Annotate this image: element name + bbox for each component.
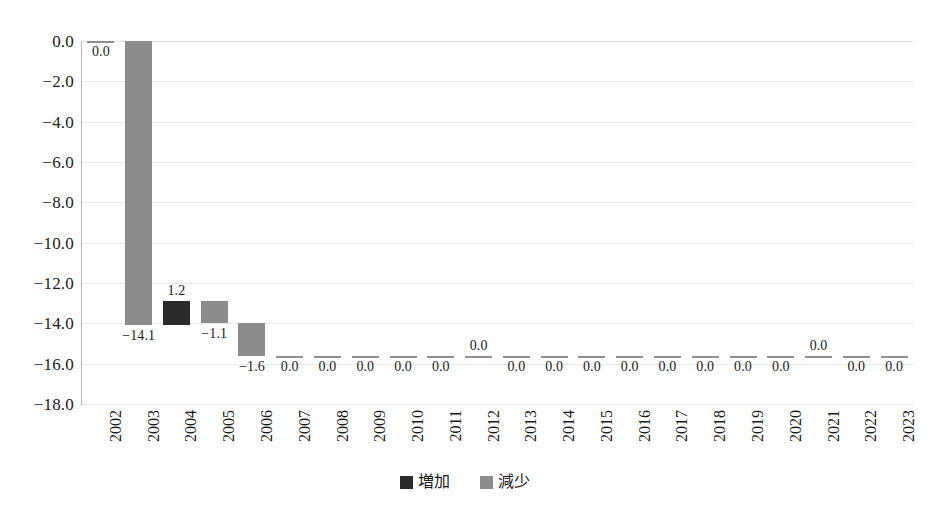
legend-swatch-increase	[400, 476, 413, 489]
gridline	[82, 162, 913, 163]
bar-2012[interactable]	[465, 356, 492, 358]
bar-value-label-2011: 0.0	[432, 360, 450, 374]
bar-value-label-2015: 0.0	[583, 360, 601, 374]
x-axis-tick-label-2022: 2022	[863, 410, 879, 442]
legend: 増加 減少	[0, 474, 929, 490]
bar-value-label-2008: 0.0	[319, 360, 337, 374]
bar-value-label-2017: 0.0	[659, 360, 677, 374]
y-axis-tick-label: −16.0	[34, 355, 74, 372]
x-axis-tick-label-2012: 2012	[486, 410, 502, 442]
y-axis-tick-label: −8.0	[42, 194, 74, 211]
gridline	[82, 243, 913, 244]
x-axis-tick-label-2003: 2003	[146, 410, 162, 442]
bar-value-label-2016: 0.0	[621, 360, 639, 374]
legend-label-decrease: 減少	[498, 474, 530, 490]
bar-2013[interactable]	[503, 356, 530, 358]
bar-value-label-2006: −1.6	[239, 360, 265, 374]
x-axis-tick-label-2005: 2005	[221, 410, 237, 442]
x-axis: 2002200320042005200620072008200920102011…	[0, 410, 929, 470]
x-axis-tick-label-2010: 2010	[410, 410, 426, 442]
y-axis-tick-label: −2.0	[42, 73, 74, 90]
x-axis-tick-label-2013: 2013	[523, 410, 539, 442]
bar-value-label-2021: 0.0	[810, 339, 828, 353]
plot-area	[82, 41, 913, 404]
x-axis-tick-label-2020: 2020	[788, 410, 804, 442]
bar-value-label-2005: −1.1	[201, 327, 227, 341]
y-axis-tick-label: −6.0	[42, 154, 74, 171]
bar-value-label-2019: 0.0	[734, 360, 752, 374]
gridline	[82, 404, 913, 405]
bar-value-label-2004: 1.2	[168, 284, 186, 298]
legend-item-increase[interactable]: 増加	[400, 474, 450, 490]
bar-value-label-2007: 0.0	[281, 360, 299, 374]
x-axis-tick-label-2002: 2002	[108, 410, 124, 442]
legend-item-decrease[interactable]: 減少	[480, 474, 530, 490]
bar-2021[interactable]	[805, 356, 832, 358]
legend-swatch-decrease	[480, 476, 493, 489]
bar-2014[interactable]	[541, 356, 568, 358]
bar-value-label-2023: 0.0	[885, 360, 903, 374]
bar-2018[interactable]	[692, 356, 719, 358]
y-axis-tick-label: 0.0	[52, 33, 74, 50]
bar-value-label-2013: 0.0	[507, 360, 525, 374]
gridline	[82, 323, 913, 324]
bar-2002[interactable]	[87, 41, 114, 43]
bar-2019[interactable]	[730, 356, 757, 358]
bar-2022[interactable]	[843, 356, 870, 358]
bar-2006[interactable]	[238, 323, 265, 355]
bar-value-label-2003: −14.1	[122, 329, 155, 343]
waterfall-chart: 0.0−2.0−4.0−6.0−8.0−10.0−12.0−14.0−16.0−…	[0, 0, 929, 516]
gridline	[82, 81, 913, 82]
y-axis-tick-label: −10.0	[34, 234, 74, 251]
bar-value-label-2010: 0.0	[394, 360, 412, 374]
bar-2010[interactable]	[390, 356, 417, 358]
bar-value-label-2009: 0.0	[356, 360, 374, 374]
bar-2015[interactable]	[578, 356, 605, 358]
bar-2005[interactable]	[201, 301, 228, 323]
bar-2020[interactable]	[767, 356, 794, 358]
x-axis-tick-label-2016: 2016	[637, 410, 653, 442]
bar-value-label-2018: 0.0	[696, 360, 714, 374]
x-axis-tick-label-2019: 2019	[750, 410, 766, 442]
x-axis-tick-label-2017: 2017	[674, 410, 690, 442]
bar-2008[interactable]	[314, 356, 341, 358]
bar-2023[interactable]	[881, 356, 908, 358]
bar-value-label-2014: 0.0	[545, 360, 563, 374]
gridline	[82, 122, 913, 123]
gridline	[82, 41, 913, 42]
gridline	[82, 202, 913, 203]
bar-value-label-2020: 0.0	[772, 360, 790, 374]
x-axis-tick-label-2008: 2008	[335, 410, 351, 442]
bar-2004[interactable]	[163, 301, 190, 325]
y-axis-tick-label: −14.0	[34, 315, 74, 332]
bar-value-label-2012: 0.0	[470, 339, 488, 353]
bar-value-label-2002: 0.0	[92, 45, 110, 59]
x-axis-tick-label-2023: 2023	[901, 410, 917, 442]
bar-2009[interactable]	[352, 356, 379, 358]
bar-2003[interactable]	[125, 41, 152, 325]
bar-2007[interactable]	[276, 356, 303, 358]
x-axis-tick-label-2007: 2007	[297, 410, 313, 442]
x-axis-tick-label-2006: 2006	[259, 410, 275, 442]
legend-label-increase: 増加	[418, 474, 450, 490]
gridline	[82, 283, 913, 284]
x-axis-tick-label-2011: 2011	[448, 410, 464, 441]
x-axis-tick-label-2015: 2015	[599, 410, 615, 442]
bar-value-label-2022: 0.0	[847, 360, 865, 374]
y-axis-tick-label: −4.0	[42, 113, 74, 130]
bar-2011[interactable]	[427, 356, 454, 358]
x-axis-tick-label-2021: 2021	[826, 410, 842, 442]
bar-2017[interactable]	[654, 356, 681, 358]
x-axis-tick-label-2018: 2018	[712, 410, 728, 442]
x-axis-tick-label-2009: 2009	[372, 410, 388, 442]
x-axis-tick-label-2014: 2014	[561, 410, 577, 442]
x-axis-tick-label-2004: 2004	[183, 410, 199, 442]
y-axis-tick-label: −12.0	[34, 275, 74, 292]
bar-2016[interactable]	[616, 356, 643, 358]
